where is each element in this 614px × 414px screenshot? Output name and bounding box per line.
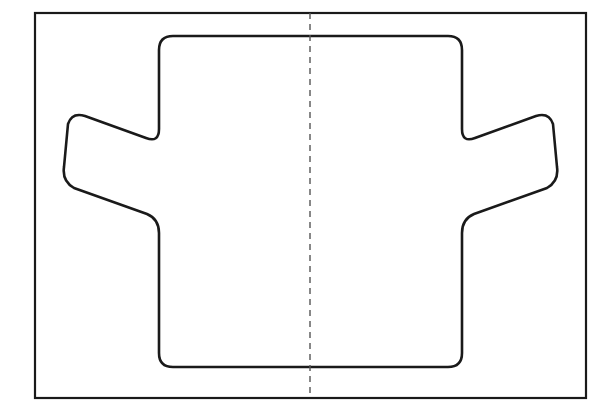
technical-drawing-svg <box>0 0 614 414</box>
drawing-canvas: Symmetric Part Outline <box>0 0 614 414</box>
